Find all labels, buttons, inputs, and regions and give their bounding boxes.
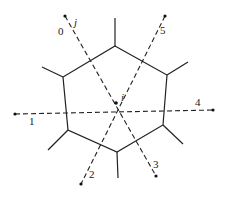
- label-1: 1: [29, 115, 35, 127]
- label-3: 3: [153, 158, 159, 170]
- label-j: j: [72, 16, 77, 28]
- point-3: [154, 174, 157, 177]
- point-4: [211, 108, 214, 111]
- dashed-line-1-4: [15, 110, 213, 114]
- spoke-upper-right: [167, 62, 188, 75]
- hexagon-cell: [63, 46, 167, 152]
- neighbor-connections: [15, 16, 213, 184]
- voronoi-cell-diagram: 0 j 5 i 1 4 2 3: [0, 0, 226, 198]
- label-2: 2: [89, 168, 95, 180]
- label-center-i: i: [121, 91, 124, 103]
- cell-spokes: [42, 18, 188, 178]
- dashed-line-0-3: [65, 16, 156, 176]
- neighbor-points: [13, 14, 214, 185]
- point-0: [63, 14, 66, 17]
- point-2: [79, 182, 82, 185]
- point-1: [13, 112, 16, 115]
- point-5: [163, 14, 166, 17]
- label-5: 5: [160, 24, 166, 36]
- label-4: 4: [195, 96, 201, 108]
- spoke-lower-left: [48, 130, 68, 150]
- spoke-bottom: [117, 152, 118, 178]
- spoke-upper-left: [42, 67, 63, 77]
- label-0: 0: [58, 25, 64, 37]
- point-center-i: [114, 101, 118, 105]
- spoke-lower-right: [163, 125, 183, 144]
